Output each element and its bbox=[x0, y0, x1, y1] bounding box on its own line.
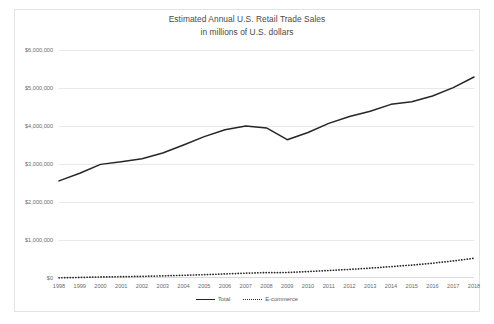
x-axis-tick-label: 2018 bbox=[468, 283, 480, 289]
chart-container: Estimated Annual U.S. Retail Trade Sales… bbox=[0, 0, 494, 324]
y-axis-tick-label: $2,000,000 bbox=[25, 199, 53, 205]
series-line-e-commerce bbox=[59, 258, 474, 278]
legend-item[interactable]: Total bbox=[196, 296, 230, 302]
x-axis-tick-label: 2016 bbox=[426, 283, 438, 289]
legend-label: Total bbox=[218, 296, 230, 302]
y-axis-tick-label: $4,000,000 bbox=[25, 123, 53, 129]
x-axis-tick-label: 2003 bbox=[157, 283, 169, 289]
x-axis-tick-label: 2005 bbox=[198, 283, 210, 289]
chart-legend: TotalE-commerce bbox=[0, 296, 494, 302]
y-axis-tick-label: $6,000,000 bbox=[25, 47, 53, 53]
x-axis-tick-label: 2017 bbox=[447, 283, 459, 289]
x-axis-tick-label: 2009 bbox=[281, 283, 293, 289]
y-axis-tick-label: $0 bbox=[47, 275, 53, 281]
x-axis-tick-label: 2000 bbox=[94, 283, 106, 289]
chart-title-block: Estimated Annual U.S. Retail Trade Sales… bbox=[0, 13, 494, 38]
x-axis-tick-label: 1999 bbox=[74, 283, 86, 289]
y-axis-tick-label: $5,000,000 bbox=[25, 85, 53, 91]
x-axis-tick-label: 2004 bbox=[177, 283, 189, 289]
chart-title: Estimated Annual U.S. Retail Trade Sales bbox=[0, 13, 494, 26]
legend-item[interactable]: E-commerce bbox=[243, 296, 298, 302]
series-line-total bbox=[59, 77, 474, 181]
x-axis-tick-label: 2007 bbox=[240, 283, 252, 289]
series-lines bbox=[59, 50, 474, 278]
x-axis-tick-label: 2001 bbox=[115, 283, 127, 289]
legend-swatch-dotted bbox=[243, 299, 262, 300]
legend-label: E-commerce bbox=[265, 296, 298, 302]
x-axis-tick-label: 2008 bbox=[260, 283, 272, 289]
legend-swatch-solid bbox=[196, 299, 215, 300]
x-axis-tick-label: 2013 bbox=[364, 283, 376, 289]
x-axis-tick-label: 2014 bbox=[385, 283, 397, 289]
x-axis-tick-label: 2010 bbox=[302, 283, 314, 289]
x-axis-tick-label: 2012 bbox=[343, 283, 355, 289]
plot-area: $6,000,000$5,000,000$4,000,000$3,000,000… bbox=[59, 50, 474, 278]
x-axis-tick-label: 2006 bbox=[219, 283, 231, 289]
x-axis-tick-label: 2015 bbox=[406, 283, 418, 289]
chart-subtitle: in millions of U.S. dollars bbox=[0, 26, 494, 39]
x-axis-tick-label: 2002 bbox=[136, 283, 148, 289]
x-axis-tick-label: 2011 bbox=[323, 283, 335, 289]
x-axis-tick-label: 1998 bbox=[53, 283, 65, 289]
y-axis-tick-label: $1,000,000 bbox=[25, 237, 53, 243]
y-axis-tick-label: $3,000,000 bbox=[25, 161, 53, 167]
